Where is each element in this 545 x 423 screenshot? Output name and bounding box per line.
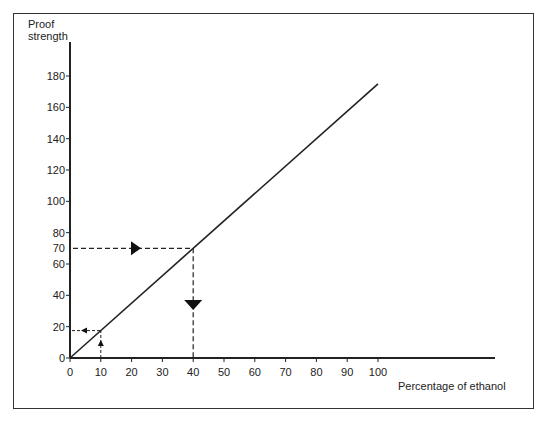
x-tick-label: 70	[279, 366, 291, 378]
y-tick-label: 60	[53, 258, 65, 270]
y-tick-label: 20	[53, 321, 65, 333]
arrow-down-icon	[184, 300, 202, 310]
data-line	[70, 84, 378, 358]
x-tick-label: 60	[249, 366, 261, 378]
x-tick-label: 80	[310, 366, 322, 378]
y-tick-label: 180	[47, 70, 65, 82]
arrow-up-icon	[98, 340, 104, 346]
y-tick-label: 100	[47, 195, 65, 207]
y-tick-label: 0	[59, 352, 65, 364]
x-tick-label: 10	[95, 366, 107, 378]
x-tick-label: 20	[125, 366, 137, 378]
y-tick-label: 120	[47, 164, 65, 176]
y-tick-label: 160	[47, 101, 65, 113]
plot-area	[0, 0, 545, 423]
y-extra-label: 70	[53, 242, 65, 254]
x-tick-label: 0	[67, 366, 73, 378]
y-tick-label: 140	[47, 133, 65, 145]
x-tick-label: 40	[187, 366, 199, 378]
x-tick-label: 90	[341, 366, 353, 378]
arrow-right-icon	[131, 241, 141, 255]
arrow-left-icon	[81, 328, 87, 334]
x-tick-label: 30	[156, 366, 168, 378]
y-tick-label: 80	[53, 227, 65, 239]
x-tick-label: 50	[218, 366, 230, 378]
x-tick-label: 100	[369, 366, 387, 378]
y-tick-label: 40	[53, 289, 65, 301]
